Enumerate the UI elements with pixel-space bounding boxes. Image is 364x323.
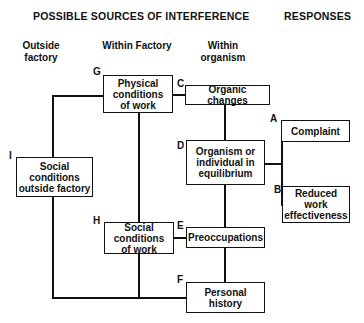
node-a-letter: A	[270, 113, 277, 124]
header-responses: RESPONSES	[284, 10, 351, 22]
node-a: Complaint	[281, 120, 350, 142]
connector-g-i	[52, 95, 104, 97]
node-c-letter: C	[177, 78, 184, 89]
connector-g-c	[172, 94, 186, 96]
node-f-text: Personal history	[201, 287, 251, 309]
node-d-text: Organism or individual in equilibrium	[190, 146, 262, 179]
node-g-letter: G	[93, 66, 101, 77]
connector-d-e	[224, 184, 226, 228]
node-c-text: Organic changes	[204, 84, 252, 106]
column-within-factory: Within Factory	[102, 40, 172, 52]
column-within-organism: Within organism	[188, 40, 258, 64]
node-h-letter: H	[93, 215, 100, 226]
node-b-letter: B	[274, 184, 281, 195]
column-outside-factory: Outside factory	[6, 40, 76, 64]
connector-d-responses	[264, 163, 282, 165]
node-g: Physical conditions of work	[103, 75, 173, 113]
connector-g-i-vertical	[52, 95, 54, 158]
connector-h-bottom	[138, 252, 140, 298]
connector-i-bottom	[52, 196, 54, 298]
node-i-letter: I	[9, 150, 12, 161]
header-sources: POSSIBLE SOURCES OF INTERFERENCE	[33, 10, 249, 22]
node-h: Social conditions of work	[104, 222, 174, 254]
node-h-text: Social conditions of work	[110, 222, 168, 255]
node-d-letter: D	[177, 140, 184, 151]
node-c: Organic changes	[185, 85, 270, 105]
node-e-letter: E	[177, 220, 184, 231]
node-b: Reduced work effectiveness	[282, 186, 350, 223]
connector-e-f	[224, 247, 226, 283]
node-i-text: Social conditions outside factory	[17, 161, 92, 194]
node-i: Social conditions outside factory	[16, 157, 93, 197]
connector-bottom-f	[52, 297, 187, 299]
node-d: Organism or individual in equilibrium	[186, 140, 265, 185]
node-a-text: Complaint	[291, 126, 340, 137]
node-e: Preoccupations	[186, 227, 265, 248]
node-e-text: Preoccupations	[188, 232, 263, 243]
node-g-text: Physical conditions of work	[109, 78, 167, 111]
connector-g-h	[138, 112, 140, 223]
node-b-text: Reduced work effectiveness	[283, 188, 349, 221]
connector-h-e	[172, 237, 186, 239]
node-f-letter: F	[177, 274, 183, 285]
node-f: Personal history	[186, 282, 265, 313]
connector-c-d	[224, 104, 226, 141]
